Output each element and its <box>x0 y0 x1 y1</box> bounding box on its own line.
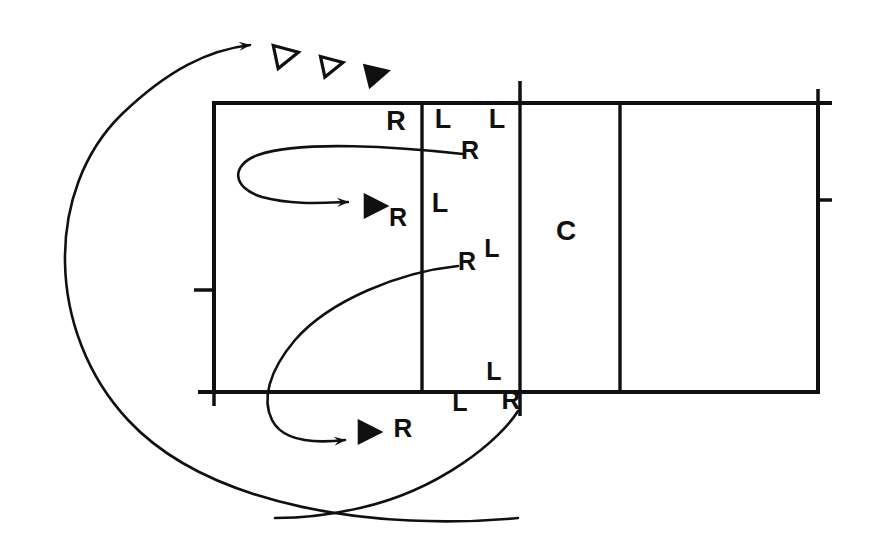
filled-triangle-icon <box>365 194 388 218</box>
curve-curve-inner-loop-upper <box>238 146 463 203</box>
diagram-canvas: RLLRLRLRCLLRR <box>0 0 869 559</box>
label-l: L <box>486 357 501 385</box>
label-r: R <box>394 413 413 443</box>
label-r: R <box>389 203 407 231</box>
label-l: L <box>452 388 467 416</box>
label-r: R <box>502 385 521 415</box>
schematic-diagram: RLLRLRLRCLLRR <box>0 0 869 559</box>
label-l: L <box>484 234 499 262</box>
outline-triangle-icon <box>273 41 301 69</box>
label-l: L <box>435 104 452 134</box>
label-l: L <box>489 104 506 134</box>
label-r: R <box>386 106 406 136</box>
box-ticks <box>194 81 832 416</box>
outline-triangle-icon <box>320 52 345 77</box>
filled-triangle-icon <box>364 59 392 87</box>
label-l: L <box>432 188 449 218</box>
label-c: C <box>556 215 576 246</box>
label-r: R <box>461 136 479 164</box>
curve-curve-lower-sweep <box>267 266 458 441</box>
label-r: R <box>458 247 476 275</box>
filled-triangle-icon <box>359 420 382 444</box>
